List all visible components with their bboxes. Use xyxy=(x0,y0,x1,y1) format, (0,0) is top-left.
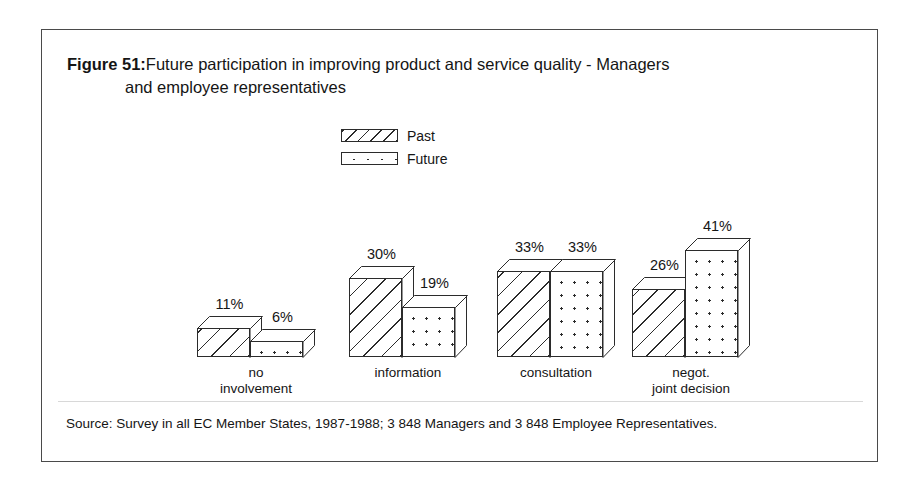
bar-side-face xyxy=(737,238,751,359)
figure-frame: Figure 51:Future participation in improv… xyxy=(41,29,878,462)
bar-value-label: 33% xyxy=(556,239,609,255)
bar-value-label: 41% xyxy=(691,218,744,234)
bar-side-face xyxy=(602,259,616,359)
bar-front-face xyxy=(197,328,250,357)
bar-negot-joint-decision-future xyxy=(685,238,750,357)
bar-front-face xyxy=(550,271,603,357)
bar-front-face xyxy=(402,307,455,357)
category-label-line: negot. xyxy=(597,365,785,381)
category-label-line: involvement xyxy=(162,381,350,397)
bar-value-label: 19% xyxy=(408,275,461,291)
bar-value-label: 6% xyxy=(256,309,309,325)
category-label-3: negot.joint decision xyxy=(597,365,785,397)
chart-plot-area: 11%6%noinvolvement30%19%information33%33… xyxy=(42,30,879,463)
bar-front-face xyxy=(497,271,550,357)
bar-value-label: 33% xyxy=(503,239,556,255)
bar-value-label: 11% xyxy=(203,296,256,312)
footer-divider xyxy=(58,401,863,402)
bar-front-face xyxy=(250,341,303,357)
category-label-line: joint decision xyxy=(597,381,785,397)
bar-information-future xyxy=(402,295,467,357)
bar-value-label: 30% xyxy=(355,246,408,262)
source-note: Source: Survey in all EC Member States, … xyxy=(66,416,856,431)
bar-front-face xyxy=(685,250,738,357)
bar-front-face xyxy=(349,278,402,357)
bar-front-face xyxy=(632,289,685,357)
bar-no-involvement-future xyxy=(250,329,315,357)
bar-consultation-future xyxy=(550,259,615,357)
bar-value-label: 26% xyxy=(638,257,691,273)
